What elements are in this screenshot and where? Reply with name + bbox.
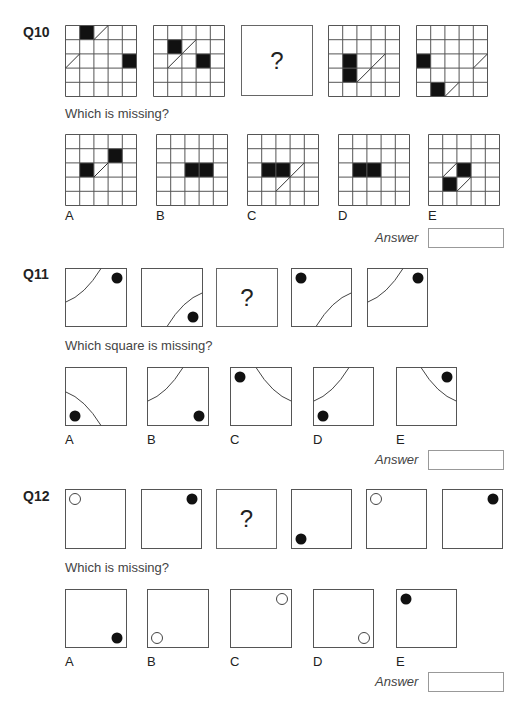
filled-dot-icon bbox=[296, 534, 307, 545]
q10-option-e[interactable] bbox=[428, 134, 500, 206]
arc-figure bbox=[147, 367, 209, 426]
q12-sequence-square-6 bbox=[442, 489, 503, 549]
dot-figure bbox=[141, 489, 202, 549]
q12-option-e[interactable] bbox=[396, 589, 457, 648]
q11-prompt: Which square is missing? bbox=[65, 338, 212, 353]
hollow-dot-icon bbox=[70, 494, 81, 505]
arc-figure bbox=[367, 268, 428, 327]
hollow-dot-icon bbox=[277, 594, 288, 605]
arc-figure bbox=[65, 367, 127, 426]
dot-icon bbox=[188, 312, 199, 323]
question-mark: ? bbox=[240, 284, 253, 312]
grid-figure bbox=[416, 25, 488, 97]
q11-missing-box: ? bbox=[216, 268, 278, 327]
dot-figure bbox=[442, 489, 503, 549]
hollow-dot-icon bbox=[359, 633, 370, 644]
q12-option-b[interactable] bbox=[147, 589, 209, 648]
q10-option-c[interactable] bbox=[247, 134, 319, 206]
dot-icon bbox=[413, 273, 424, 284]
filled-dot-icon bbox=[187, 494, 198, 505]
q10-option-d-label: D bbox=[338, 208, 347, 223]
q12-prompt: Which is missing? bbox=[65, 560, 169, 575]
hollow-dot-icon bbox=[152, 633, 163, 644]
q11-option-a-label: A bbox=[65, 432, 74, 447]
q11-option-b[interactable] bbox=[147, 367, 209, 426]
q10-option-a[interactable] bbox=[65, 134, 137, 206]
filled-dot-icon bbox=[488, 494, 499, 505]
q11-sequence-square-5 bbox=[367, 268, 428, 327]
arc-figure bbox=[141, 268, 203, 327]
filled-dot-icon bbox=[112, 633, 123, 644]
grid-figure bbox=[247, 134, 319, 206]
q10-sequence-grid-2 bbox=[153, 25, 225, 97]
q10-sequence-grid-5 bbox=[416, 25, 488, 97]
q10-option-c-label: C bbox=[247, 208, 256, 223]
q11-option-d-label: D bbox=[313, 432, 322, 447]
q12-option-c[interactable] bbox=[230, 589, 292, 648]
q12-option-a-label: A bbox=[65, 654, 74, 669]
grid-figure bbox=[156, 134, 228, 206]
dot-figure bbox=[230, 589, 292, 648]
q11-option-d[interactable] bbox=[313, 367, 374, 426]
q12-sequence-square-1 bbox=[65, 489, 126, 549]
filled-dot-icon bbox=[401, 594, 412, 605]
q10-option-b[interactable] bbox=[156, 134, 228, 206]
arc-figure bbox=[396, 367, 457, 426]
dot-icon bbox=[70, 411, 81, 422]
q12-option-b-label: B bbox=[147, 654, 156, 669]
arc-figure bbox=[230, 367, 292, 426]
dot-figure bbox=[291, 489, 352, 549]
dot-figure bbox=[65, 489, 126, 549]
dot-figure bbox=[147, 589, 209, 648]
arc-figure bbox=[291, 268, 352, 327]
q12-option-d-label: D bbox=[313, 654, 322, 669]
grid-figure bbox=[65, 25, 137, 97]
q12-sequence-square-4 bbox=[291, 489, 352, 549]
q11-option-c-label: C bbox=[230, 432, 239, 447]
question-label-q11: Q11 bbox=[23, 266, 49, 282]
grid-figure bbox=[328, 25, 400, 97]
q10-option-a-label: A bbox=[65, 208, 74, 223]
q11-option-b-label: B bbox=[147, 432, 156, 447]
dot-figure bbox=[313, 589, 374, 648]
q11-answer-label: Answer bbox=[375, 452, 418, 467]
dot-icon bbox=[194, 411, 205, 422]
dot-icon bbox=[442, 372, 453, 383]
dot-figure bbox=[65, 589, 127, 648]
q10-sequence-grid-4 bbox=[328, 25, 400, 97]
q11-sequence-square-2 bbox=[141, 268, 203, 327]
grid-figure bbox=[65, 134, 137, 206]
q12-sequence-square-5 bbox=[366, 489, 427, 549]
q12-option-e-label: E bbox=[396, 654, 405, 669]
q12-option-c-label: C bbox=[230, 654, 239, 669]
q11-option-a[interactable] bbox=[65, 367, 127, 426]
q11-option-c[interactable] bbox=[230, 367, 292, 426]
q10-prompt: Which is missing? bbox=[65, 106, 169, 121]
grid-figure bbox=[338, 134, 410, 206]
q12-option-a[interactable] bbox=[65, 589, 127, 648]
q12-answer-label: Answer bbox=[375, 674, 418, 689]
q11-answer-field[interactable] bbox=[428, 450, 504, 470]
arc-figure bbox=[65, 268, 127, 327]
q11-option-e[interactable] bbox=[396, 367, 457, 426]
q10-option-d[interactable] bbox=[338, 134, 410, 206]
q10-answer-field[interactable] bbox=[428, 228, 504, 248]
dot-icon bbox=[296, 273, 307, 284]
dot-figure bbox=[366, 489, 427, 549]
q10-option-e-label: E bbox=[428, 208, 437, 223]
question-mark: ? bbox=[270, 47, 283, 75]
question-label-q10: Q10 bbox=[23, 24, 49, 40]
q10-option-b-label: B bbox=[156, 208, 165, 223]
dot-figure bbox=[396, 589, 457, 648]
q11-option-e-label: E bbox=[396, 432, 405, 447]
dot-icon bbox=[318, 411, 329, 422]
arc-figure bbox=[313, 367, 374, 426]
q10-sequence-grid-1 bbox=[65, 25, 137, 97]
q10-answer-label: Answer bbox=[375, 230, 418, 245]
q10-missing-box: ? bbox=[241, 25, 313, 96]
hollow-dot-icon bbox=[371, 494, 382, 505]
q12-option-d[interactable] bbox=[313, 589, 374, 648]
q12-answer-field[interactable] bbox=[428, 672, 504, 692]
grid-figure bbox=[153, 25, 225, 97]
question-label-q12: Q12 bbox=[23, 488, 49, 504]
